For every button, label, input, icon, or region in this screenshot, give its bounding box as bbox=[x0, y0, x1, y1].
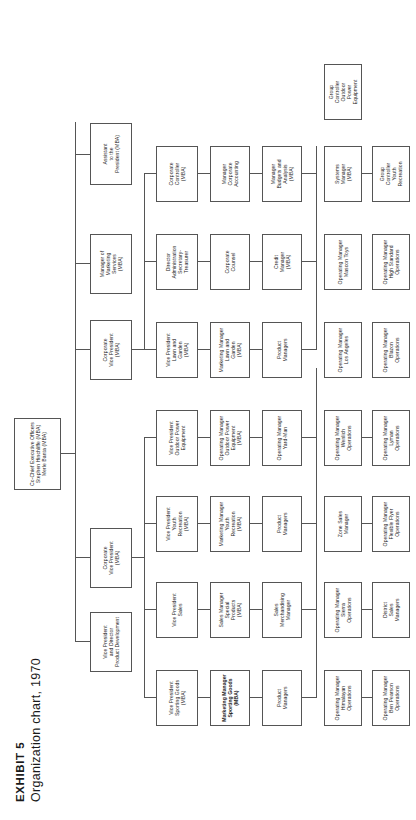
connector-l1-d bbox=[75, 263, 90, 264]
node-om-ben-pearson-label: Operating ManagerBen PearsonOperations bbox=[382, 673, 400, 723]
node-district-sales-managers[interactable]: DistrictSalesManagers bbox=[372, 582, 410, 638]
node-om-mascon-toys[interactable]: Operating ManagerMascon Toys bbox=[324, 234, 362, 290]
node-vp-youth-recreation[interactable]: Vice PresidentYouthRecreation(MBA) bbox=[156, 496, 198, 552]
connector-level2-bus-right bbox=[144, 174, 145, 350]
exhibit-page: EXHIBIT 5 Organization chart, 1970 Co-Ch… bbox=[0, 0, 416, 820]
node-product-managers-sg[interactable]: ProductManagers bbox=[262, 670, 302, 726]
node-product-managers-lg[interactable]: ProductManagers bbox=[262, 322, 302, 378]
node-mgr-budgets-analysis-label: ManagerBudgets andAnalysis(MBA) bbox=[270, 149, 294, 199]
node-corporate-counsel[interactable]: CorporateCounsel bbox=[210, 234, 250, 290]
exhibit-label: EXHIBIT 5 bbox=[14, 552, 26, 802]
node-product-managers-yr[interactable]: ProductManagers bbox=[262, 496, 302, 552]
node-credit-manager-label: CreditManager(MBA) bbox=[273, 237, 291, 287]
node-mgr-budgets-analysis[interactable]: ManagerBudgets andAnalysis(MBA) bbox=[262, 146, 302, 202]
node-district-sales-managers-label: DistrictSalesManagers bbox=[382, 585, 400, 635]
node-vp-product-dev-label: Vice Presidentand DirectorProduct Develo… bbox=[102, 615, 120, 669]
connector-l2-g bbox=[144, 173, 156, 174]
node-vp-lawn-garden-label: Vice PresidentLawn andGarden(MBA) bbox=[165, 325, 189, 375]
node-systems-manager-label: SystemsManager(MBA) bbox=[334, 149, 352, 199]
node-vp-sales[interactable]: Vice PresidentSales bbox=[156, 582, 198, 638]
node-group-controller-outdoor[interactable]: GroupControllerOutdoorPowerEquipment bbox=[324, 64, 362, 120]
connector-row6-d bbox=[362, 437, 372, 438]
node-corporate-controller[interactable]: CorporateController(MBA) bbox=[156, 146, 198, 202]
node-systems-manager[interactable]: SystemsManager(MBA) bbox=[324, 146, 362, 202]
node-om-yard-man[interactable]: Operating ManagerYard-Man bbox=[262, 410, 302, 466]
node-om-himalayan[interactable]: Operating ManagerHimalayanOperations bbox=[324, 670, 362, 726]
node-sales-merchandising-manager[interactable]: SalesMerchandisingManager bbox=[262, 582, 302, 638]
chart-canvas: EXHIBIT 5 Organization chart, 1970 Co-Ch… bbox=[0, 0, 416, 820]
title-block: EXHIBIT 5 Organization chart, 1970 bbox=[14, 552, 43, 802]
node-om-blazon-label: Operating ManagerBlazonOperations bbox=[382, 325, 400, 375]
connector-row6-g bbox=[362, 173, 372, 174]
node-om-flexible-flyer[interactable]: Operating ManagerFlexible FlyerOperation… bbox=[372, 496, 410, 552]
connector-l4-a bbox=[250, 697, 262, 698]
connector-cvp-left-down bbox=[132, 557, 144, 558]
node-zone-sales-manager-label: Zone SalesManager bbox=[337, 499, 349, 549]
node-om-sierra[interactable]: Operating ManagerSierraOperations bbox=[324, 582, 362, 638]
node-mm-lawn-garden-label: Marketing ManagerLawn andGarden(MBA) bbox=[218, 325, 242, 375]
node-director-administration[interactable]: DirectorAdministrationSecretary-Treasure… bbox=[156, 234, 198, 290]
node-ceo[interactable]: Co-Chief Executive OfficersStephen Hinch… bbox=[14, 418, 61, 490]
node-om-yard-man-label: Operating ManagerYard-Man bbox=[276, 413, 288, 463]
connector-row6-a bbox=[362, 697, 372, 698]
node-corporate-vp-right[interactable]: CorporateVice President(MBA) bbox=[90, 320, 132, 380]
node-corporate-controller-label: CorporateController(MBA) bbox=[168, 149, 186, 199]
node-om-blazon[interactable]: Operating ManagerBlazonOperations bbox=[372, 322, 410, 378]
node-vp-outdoor-power[interactable]: Vice PresidentOutdoor PowerEquipment bbox=[156, 410, 198, 466]
node-vp-lawn-garden[interactable]: Vice PresidentLawn andGarden(MBA) bbox=[156, 322, 198, 378]
node-om-himalayan-label: Operating ManagerHimalayanOperations bbox=[334, 673, 352, 723]
node-om-high-standard-label: Operating ManagerHigh StandardOperations bbox=[382, 237, 400, 287]
page-title: Organization chart, 1970 bbox=[29, 552, 43, 802]
connector-row6-c bbox=[362, 523, 372, 524]
connector-l2-c bbox=[144, 523, 156, 524]
node-om-high-standard[interactable]: Operating ManagerHigh StandardOperations bbox=[372, 234, 410, 290]
node-om-sierra-label: Operating ManagerSierraOperations bbox=[334, 585, 352, 635]
connector-ope-down bbox=[198, 437, 210, 438]
node-mgr-marketing-services-label: Manager ofMarketingServices(MBA) bbox=[99, 237, 123, 291]
node-om-los-angeles[interactable]: Operating ManagerLos Angeles bbox=[324, 322, 362, 378]
connector-l4-e bbox=[250, 349, 262, 350]
connector-ops-bus-2 bbox=[316, 146, 317, 350]
rotated-chart-container: EXHIBIT 5 Organization chart, 1970 Co-Ch… bbox=[0, 0, 416, 820]
node-corporate-vp-left[interactable]: CorporateVice President(MBA) bbox=[90, 528, 132, 588]
node-product-managers-sg-label: ProductManagers bbox=[276, 673, 288, 723]
node-mm-youth-recreation[interactable]: Marketing ManagerYouthRecreation(MBA) bbox=[210, 496, 250, 552]
node-assistant-president[interactable]: Assistantto thePresident (MBA) bbox=[90, 123, 132, 185]
connector-l2-b bbox=[144, 609, 156, 610]
node-ceo-label: Co-Chief Executive OfficersStephen Hinch… bbox=[29, 421, 47, 487]
node-vp-product-dev[interactable]: Vice Presidentand DirectorProduct Develo… bbox=[90, 612, 132, 672]
node-vp-sporting-goods[interactable]: Vice PresidentSporting Goods(MBA) bbox=[156, 670, 198, 726]
node-mgr-marketing-services[interactable]: Manager ofMarketingServices(MBA) bbox=[90, 234, 132, 294]
node-corporate-vp-right-label: CorporateVice President(MBA) bbox=[102, 323, 120, 377]
connector-cc-down bbox=[198, 173, 210, 174]
node-om-wenlich-label: Operating ManagerWenlichOperations bbox=[334, 413, 352, 463]
connector-lg-down bbox=[198, 349, 210, 350]
node-director-administration-label: DirectorAdministrationSecretary-Treasure… bbox=[165, 237, 189, 287]
node-mm-lawn-garden[interactable]: Marketing ManagerLawn andGarden(MBA) bbox=[210, 322, 250, 378]
connector-l2-f bbox=[144, 261, 156, 262]
node-mgr-corporate-accounting[interactable]: ManagerCorporateAccounting bbox=[210, 146, 250, 202]
node-group-controller-youth-label: GroupControllerYouthRecreation bbox=[379, 149, 403, 199]
node-vp-sales-label: Vice PresidentSales bbox=[171, 585, 183, 635]
node-om-outdoor-power[interactable]: Operating ManagerOutdoor PowerEquipment(… bbox=[210, 410, 250, 466]
connector-ops-stub-b bbox=[302, 609, 316, 610]
node-vp-sporting-goods-label: Vice PresidentSporting Goods(MBA) bbox=[168, 673, 186, 723]
node-credit-manager[interactable]: CreditManager(MBA) bbox=[262, 234, 302, 290]
node-mm-youth-recreation-label: Marketing ManagerYouthRecreation(MBA) bbox=[218, 499, 242, 549]
node-om-wenlich[interactable]: Operating ManagerWenlichOperations bbox=[324, 410, 362, 466]
node-mm-sporting-goods[interactable]: Marketing ManagerSporting Goods(MBA) bbox=[210, 670, 250, 726]
node-om-ben-pearson[interactable]: Operating ManagerBen PearsonOperations bbox=[372, 670, 410, 726]
connector-l1-e bbox=[75, 154, 90, 155]
node-product-managers-lg-label: ProductManagers bbox=[276, 325, 288, 375]
connector-l4-d bbox=[250, 437, 262, 438]
connector-ops-stub-a bbox=[302, 697, 316, 698]
connector-cvp-right-down bbox=[132, 349, 144, 350]
connector-ceo-down bbox=[61, 453, 75, 454]
node-vp-outdoor-power-label: Vice PresidentOutdoor PowerEquipment bbox=[168, 413, 186, 463]
node-group-controller-youth[interactable]: GroupControllerYouthRecreation bbox=[372, 146, 410, 202]
node-corporate-counsel-label: CorporateCounsel bbox=[224, 237, 236, 287]
node-om-lyman[interactable]: Operating ManagerLymanOperations bbox=[372, 410, 410, 466]
node-zone-sales-manager[interactable]: Zone SalesManager bbox=[324, 496, 362, 552]
connector-ops-stub-g bbox=[302, 173, 316, 174]
node-sales-mgr-special-products[interactable]: Sales ManagerSpecialProducts(MBA) bbox=[210, 582, 250, 638]
